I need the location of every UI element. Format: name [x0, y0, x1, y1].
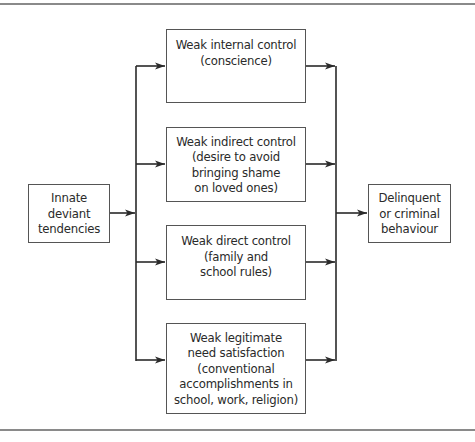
outcome-box: Delinquent or criminal behaviour [368, 184, 451, 243]
control-label-indirect: Weak indirect control (desire to avoid b… [176, 134, 296, 196]
control-label-direct: Weak direct control (family and school r… [181, 233, 290, 280]
control-label-need-satisfaction: Weak legitimate need satisfaction (conve… [174, 330, 298, 408]
control-label-internal: Weak internal control (conscience) [176, 37, 297, 68]
source-label: Innate deviant tendencies [38, 190, 100, 237]
control-box-direct: Weak direct control (family and school r… [166, 225, 306, 300]
control-box-internal: Weak internal control (conscience) [166, 29, 306, 103]
source-box: Innate deviant tendencies [28, 184, 110, 243]
control-box-need-satisfaction: Weak legitimate need satisfaction (conve… [166, 323, 306, 414]
control-box-indirect: Weak indirect control (desire to avoid b… [166, 127, 306, 202]
outcome-label: Delinquent or criminal behaviour [378, 190, 440, 237]
